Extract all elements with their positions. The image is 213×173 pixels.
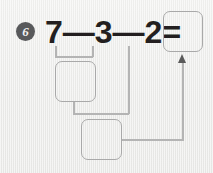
bracket-bottom-bar: [55, 56, 93, 58]
operator-1: —: [63, 14, 95, 50]
connector-operand3-left: [101, 113, 129, 115]
answer-box-final[interactable]: [163, 11, 203, 52]
connector-operand3-down: [128, 46, 130, 114]
arrow-up-icon: [178, 54, 186, 63]
problem-number-badge: 6: [16, 22, 35, 41]
operand-2: 3: [95, 14, 113, 50]
operand-3: 2: [145, 14, 163, 50]
math-worksheet-problem: 6 7—3—2=: [0, 0, 213, 173]
connector-answer-up: [182, 62, 184, 140]
answer-box-step-2[interactable]: [81, 119, 122, 160]
connector-step1-right: [73, 113, 103, 115]
answer-box-step-1[interactable]: [55, 61, 96, 102]
connector-step2-right: [122, 139, 184, 141]
equation-text: 7—3—2=: [45, 14, 181, 50]
bracket-right-stem: [92, 46, 94, 57]
operand-1: 7: [45, 14, 63, 50]
operator-2: —: [113, 14, 145, 50]
